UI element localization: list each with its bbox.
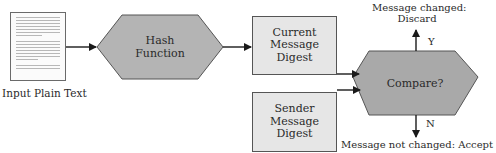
sender-digest-line1: Sender	[270, 103, 319, 116]
hash-label-line1: Hash	[120, 34, 200, 47]
current-digest-line3: Digest	[270, 52, 319, 65]
document-icon	[10, 12, 66, 81]
message-not-changed-label: Message not changed: Accept	[339, 139, 495, 151]
message-changed-line1: Message changed:	[372, 2, 462, 13]
message-changed-line2: Discard	[372, 13, 462, 24]
message-changed-label: Message changed: Discard	[372, 2, 462, 24]
hash-function-label: Hash Function	[120, 34, 200, 60]
compare-label: Compare?	[372, 77, 458, 90]
no-label: N	[426, 118, 435, 130]
current-message-digest-box: Current Message Digest	[252, 16, 337, 75]
yes-label: Y	[428, 36, 435, 48]
sender-message-digest-box: Sender Message Digest	[252, 92, 337, 152]
input-plain-text-label: Input Plain Text	[2, 87, 76, 99]
current-digest-line2: Message	[270, 39, 319, 52]
sender-digest-line3: Digest	[270, 128, 319, 141]
hash-label-line2: Function	[120, 47, 200, 60]
